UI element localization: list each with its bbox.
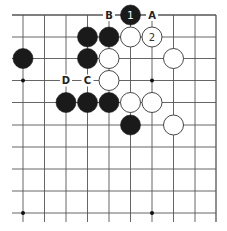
white-stone-icon <box>142 93 162 113</box>
move-number-1: 1 <box>127 10 133 21</box>
black-stone-icon <box>78 27 98 47</box>
move-number-2: 2 <box>149 32 155 43</box>
black-stone-icon <box>99 27 119 47</box>
white-stone-icon <box>99 71 119 91</box>
point-label-c: C <box>84 75 91 86</box>
star-point-icon <box>21 211 25 215</box>
black-stone-icon <box>56 93 76 113</box>
black-stone-icon <box>121 115 141 135</box>
point-label-a: A <box>148 10 156 21</box>
star-point-icon <box>150 79 154 83</box>
star-point-icon <box>21 79 25 83</box>
stones: 12 <box>13 5 184 135</box>
black-stone-icon <box>78 93 98 113</box>
board-grid <box>12 15 216 222</box>
black-stone-icon <box>13 49 33 69</box>
black-stone-icon <box>99 93 119 113</box>
white-stone-icon <box>164 49 184 69</box>
go-board-diagram: BADC 12 <box>0 0 227 231</box>
white-stone-icon <box>164 115 184 135</box>
star-point-icon <box>150 211 154 215</box>
white-stone-icon <box>121 27 141 47</box>
black-stone-icon <box>78 49 98 69</box>
white-stone-icon <box>121 93 141 113</box>
point-label-b: B <box>105 10 113 21</box>
point-label-d: D <box>62 75 70 86</box>
white-stone-icon <box>99 49 119 69</box>
